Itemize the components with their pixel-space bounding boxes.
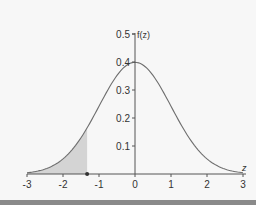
y-ticks: 0.10.20.30.40.5 <box>116 29 135 152</box>
y-tick-label: 0.3 <box>116 85 130 96</box>
shaded-area-path <box>27 128 87 174</box>
x-tick-label: 0 <box>132 179 138 190</box>
y-tick-label: 0.4 <box>116 57 130 68</box>
x-tick-label: 1 <box>168 179 174 190</box>
x-tick-label: -2 <box>59 179 68 190</box>
y-tick-label: 0.2 <box>116 113 130 124</box>
shaded-tail-area <box>27 128 87 174</box>
x-tick-label: 3 <box>240 179 246 190</box>
y-axis-title: f(z) <box>137 30 150 40</box>
x-tick-label: -1 <box>95 179 104 190</box>
y-tick-label: 0.5 <box>116 29 130 40</box>
z-value-marker <box>85 172 89 176</box>
y-tick-label: 0.1 <box>116 141 130 152</box>
normal-distribution-chart: -3-2-10123 0.10.20.30.40.5 f(z) z <box>0 0 256 205</box>
x-axis-title: z <box>241 163 247 173</box>
x-ticks: -3-2-10123 <box>23 174 247 190</box>
x-tick-label: -3 <box>23 179 32 190</box>
bottom-border-bar <box>0 200 256 205</box>
x-tick-label: 2 <box>204 179 210 190</box>
